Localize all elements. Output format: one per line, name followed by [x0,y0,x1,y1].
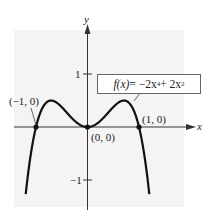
point-label-neg1-0: (−1, 0) [9,96,39,107]
function-rhs-part1: = −2x [129,78,156,90]
x-axis-label: x [197,121,202,132]
x-axis-arrow-icon [186,124,196,130]
y-tick-label-neg1: −1 [70,175,82,186]
function-rhs-part2: + 2x [160,78,181,90]
function-lhs: f(x) [113,78,129,90]
point-0-0 [85,124,90,129]
point-label-0-0: (0, 0) [91,132,115,143]
plot-canvas [0,0,208,220]
y-tick-label-1: 1 [75,69,81,80]
y-axis-label: y [84,14,89,25]
point-neg1-0 [33,124,38,129]
point-label-1-0: (1, 0) [142,114,166,125]
function-label-box: f(x) = −2x 4 + 2x 2 [97,74,201,94]
function-exponent-2: 2 [181,80,185,88]
y-axis-arrow-icon [85,24,91,34]
point-1-0 [136,124,141,129]
